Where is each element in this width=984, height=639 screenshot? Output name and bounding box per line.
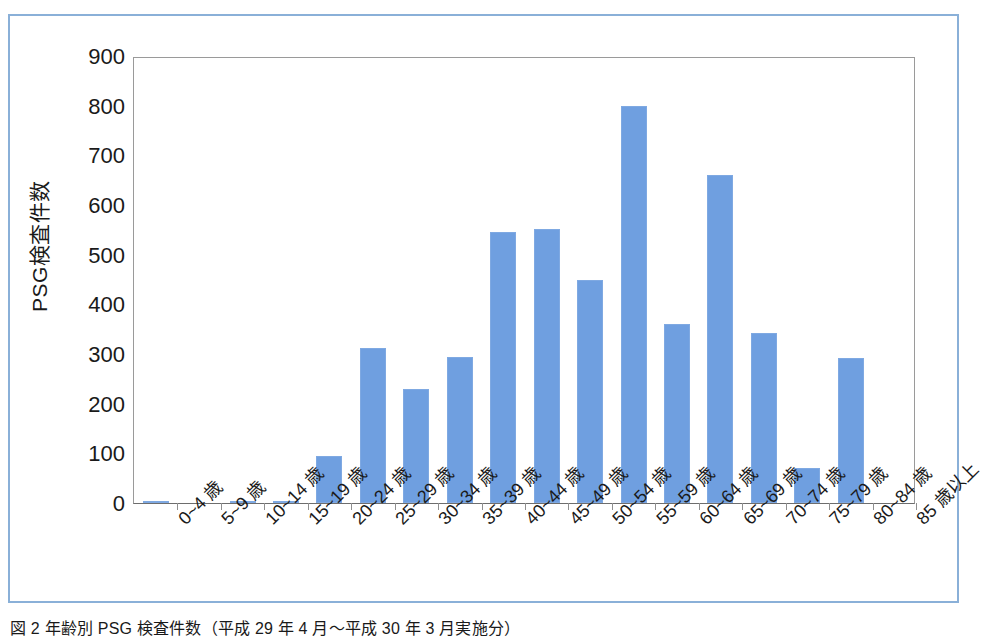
y-axis-tick-labels: 9008007006005004003002001000 (65, 57, 125, 504)
bar-slot (395, 58, 438, 503)
x-tick-label: 65~69 歳 (736, 511, 754, 529)
bar-slot (829, 58, 872, 503)
bar[interactable] (621, 106, 647, 503)
x-tick-label: 50~54 歳 (605, 511, 623, 529)
bar-slot (568, 58, 611, 503)
y-axis-title: PSG検査件数 (23, 46, 53, 446)
x-tick-label: 30~34 歳 (431, 511, 449, 529)
x-tick-label: 15~19 歳 (301, 511, 319, 529)
x-tick-label: 0~4 歳 (171, 511, 189, 529)
x-tick-label: 20~24 歳 (345, 511, 363, 529)
figure-caption: 図 2 年齢別 PSG 検査件数（平成 29 年 4 月～平成 30 年 3 月… (10, 615, 520, 639)
y-tick-label: 900 (67, 46, 125, 68)
x-tick-label: 35~39 歳 (475, 511, 493, 529)
bar[interactable] (490, 232, 516, 503)
x-tick-label: 10~14 歳 (258, 511, 276, 529)
bar-slot (482, 58, 525, 503)
bar-slot (786, 58, 829, 503)
bar-chart: PSG検査件数 9008007006005004003002001000 0~4… (10, 16, 957, 601)
y-tick-label: 600 (67, 195, 125, 217)
bar-slot (655, 58, 698, 503)
x-tick-label: 85 歳以上 (909, 511, 927, 529)
x-tick-label: 25~29 歳 (388, 511, 406, 529)
bar-slot (134, 58, 177, 503)
x-tick-label: 5~9 歳 (214, 511, 232, 529)
bar[interactable] (143, 501, 169, 503)
y-tick-label: 500 (67, 245, 125, 267)
x-axis-tick-labels: 0~4 歳5~9 歳10~14 歳15~19 歳20~24 歳25~29 歳30… (133, 505, 915, 605)
bar-slot (873, 58, 916, 503)
bar-slot (525, 58, 568, 503)
bar-slot (438, 58, 481, 503)
bar-slot (351, 58, 394, 503)
y-tick-label: 800 (67, 96, 125, 118)
y-tick-label: 700 (67, 145, 125, 167)
bar-slot (612, 58, 655, 503)
y-tick-label: 100 (67, 443, 125, 465)
figure-frame: PSG検査件数 9008007006005004003002001000 0~4… (8, 14, 959, 603)
y-tick-label: 300 (67, 344, 125, 366)
bar[interactable] (534, 229, 560, 503)
x-tick-label: 40~44 歳 (518, 511, 536, 529)
bar-slot (264, 58, 307, 503)
bar-slot (177, 58, 220, 503)
x-tick-label: 45~49 歳 (562, 511, 580, 529)
bar[interactable] (707, 175, 733, 503)
x-tick-label: 70~74 歳 (779, 511, 797, 529)
y-tick-label: 0 (67, 493, 125, 515)
x-tick-label: 55~59 歳 (649, 511, 667, 529)
x-tick-label: 75~79 歳 (822, 511, 840, 529)
x-tick-label: 60~64 歳 (692, 511, 710, 529)
bar-slot (699, 58, 742, 503)
bar-slot (308, 58, 351, 503)
bar-slot (221, 58, 264, 503)
x-tick-label: 80~84 歳 (866, 511, 884, 529)
plot-area (133, 57, 915, 504)
y-tick-label: 400 (67, 294, 125, 316)
y-tick-label: 200 (67, 394, 125, 416)
bar-slot (742, 58, 785, 503)
